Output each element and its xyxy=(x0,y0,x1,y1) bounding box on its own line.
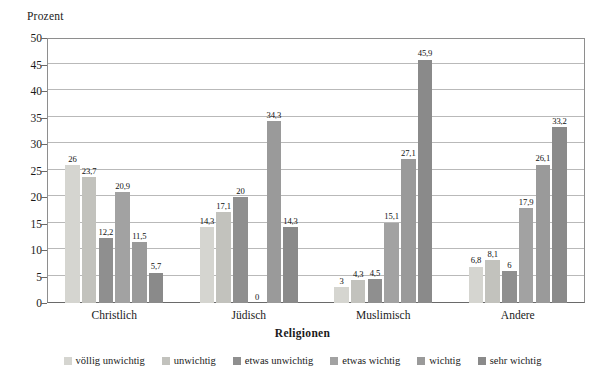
bar[interactable] xyxy=(536,165,551,303)
legend-label: etwas wichtig xyxy=(342,355,400,366)
bar-slot[interactable]: 33,2 xyxy=(552,38,567,303)
legend-swatch-icon xyxy=(64,357,72,365)
bar-value-label: 23,7 xyxy=(82,166,97,176)
bar-value-label: 14,3 xyxy=(283,216,298,226)
bar[interactable] xyxy=(519,208,534,303)
bar-value-label: 45,9 xyxy=(418,48,433,58)
bar-value-label: 14,3 xyxy=(200,216,215,226)
bar[interactable] xyxy=(65,165,80,303)
bar-slot[interactable]: 26,1 xyxy=(536,38,551,303)
bar-slot[interactable]: 23,7 xyxy=(82,38,97,303)
bar[interactable] xyxy=(82,177,97,303)
legend-item[interactable]: unwichtig xyxy=(162,355,216,366)
legend-item[interactable]: sehr wichtig xyxy=(478,355,542,366)
bar-slot[interactable]: 5,7 xyxy=(149,38,164,303)
bar[interactable] xyxy=(132,242,147,303)
bar[interactable] xyxy=(485,260,500,303)
bar[interactable] xyxy=(283,227,298,303)
bar[interactable] xyxy=(233,197,248,303)
bar-slot[interactable]: 17,9 xyxy=(519,38,534,303)
bar-slot[interactable]: 4,5 xyxy=(368,38,383,303)
x-axis-title: Religionen xyxy=(0,327,605,339)
bar-value-label: 20 xyxy=(236,186,244,196)
bar-slot[interactable]: 6,8 xyxy=(469,38,484,303)
bar[interactable] xyxy=(418,60,433,303)
bar-value-label: 33,2 xyxy=(552,116,567,126)
bar-group: 14,317,120034,314,3 xyxy=(182,38,317,303)
bar-slot[interactable]: 26 xyxy=(65,38,80,303)
bar-slot[interactable]: 4,3 xyxy=(351,38,366,303)
bar[interactable] xyxy=(469,267,484,303)
y-tick-label: 0 xyxy=(2,297,42,309)
bar-group: 6,88,1617,926,133,2 xyxy=(451,38,586,303)
bar-slot[interactable]: 14,3 xyxy=(200,38,215,303)
bar[interactable] xyxy=(401,159,416,303)
bar-value-label: 26,1 xyxy=(535,153,550,163)
bar[interactable] xyxy=(384,223,399,303)
legend-label: wichtig xyxy=(429,355,461,366)
legend-item[interactable]: wichtig xyxy=(417,355,461,366)
legend-swatch-icon xyxy=(417,357,425,365)
bar-slot[interactable]: 3 xyxy=(334,38,349,303)
y-tick-label: 5 xyxy=(2,271,42,283)
bar-value-label: 11,5 xyxy=(132,231,146,241)
legend-label: sehr wichtig xyxy=(490,355,542,366)
bar-value-label: 34,3 xyxy=(266,110,281,120)
bar-slot[interactable]: 6 xyxy=(502,38,517,303)
bar-value-label: 5,7 xyxy=(151,261,161,271)
legend-item[interactable]: etwas unwichtig xyxy=(233,355,314,366)
legend-item[interactable]: etwas wichtig xyxy=(330,355,400,366)
y-tick-mark xyxy=(41,303,47,304)
bar-slot[interactable]: 11,5 xyxy=(132,38,147,303)
bar-value-label: 3 xyxy=(339,276,343,286)
bar-value-label: 17,1 xyxy=(216,201,231,211)
y-tick-label: 10 xyxy=(2,244,42,256)
y-tick-label: 15 xyxy=(2,218,42,230)
bar-slot[interactable]: 20 xyxy=(233,38,248,303)
bar-slot[interactable]: 20,9 xyxy=(115,38,130,303)
bar-group: 34,34,515,127,145,9 xyxy=(316,38,451,303)
x-tick-label: Muslimisch xyxy=(356,309,410,321)
bar-slot[interactable]: 12,2 xyxy=(99,38,114,303)
bar-slot[interactable]: 34,3 xyxy=(267,38,282,303)
bar-value-label: 20,9 xyxy=(115,181,130,191)
bar[interactable] xyxy=(99,238,114,303)
bar-group: 2623,712,220,911,55,7 xyxy=(47,38,182,303)
y-tick-label: 40 xyxy=(2,85,42,97)
legend-label: völlig unwichtig xyxy=(76,355,145,366)
bar[interactable] xyxy=(200,227,215,303)
bar-slot[interactable]: 17,1 xyxy=(216,38,231,303)
y-tick-label: 30 xyxy=(2,138,42,150)
bar-chart: Prozent 05101520253035404550 2623,712,22… xyxy=(0,0,605,387)
x-tick-label: Andere xyxy=(501,309,535,321)
chart-legend: völlig unwichtigunwichtigetwas unwichtig… xyxy=(0,355,605,366)
bar[interactable] xyxy=(267,121,282,303)
bar-value-label: 26 xyxy=(68,154,76,164)
bar-value-label: 12,2 xyxy=(99,227,114,237)
bar-slot[interactable]: 14,3 xyxy=(283,38,298,303)
y-tick-label: 50 xyxy=(2,32,42,44)
bar[interactable] xyxy=(334,287,349,303)
legend-item[interactable]: völlig unwichtig xyxy=(64,355,145,366)
bar[interactable] xyxy=(115,192,130,303)
bar-slot[interactable]: 27,1 xyxy=(401,38,416,303)
bar[interactable] xyxy=(502,271,517,303)
bar-value-label: 15,1 xyxy=(384,211,399,221)
bar[interactable] xyxy=(216,212,231,303)
x-tick-label: Christlich xyxy=(92,309,137,321)
y-tick-label: 25 xyxy=(2,165,42,177)
legend-label: unwichtig xyxy=(174,355,216,366)
legend-swatch-icon xyxy=(233,357,241,365)
bar-value-label: 8,1 xyxy=(487,249,497,259)
bar[interactable] xyxy=(552,127,567,303)
bar[interactable] xyxy=(368,279,383,303)
bar-value-label: 17,9 xyxy=(519,197,534,207)
bar-slot[interactable]: 45,9 xyxy=(418,38,433,303)
bar-value-label: 0 xyxy=(255,292,259,302)
bar-slot[interactable]: 8,1 xyxy=(485,38,500,303)
bar[interactable] xyxy=(149,273,164,303)
bar-value-label: 6,8 xyxy=(471,255,481,265)
bar[interactable] xyxy=(351,280,366,303)
bar-slot[interactable]: 15,1 xyxy=(384,38,399,303)
bar-slot[interactable]: 0 xyxy=(250,38,265,303)
